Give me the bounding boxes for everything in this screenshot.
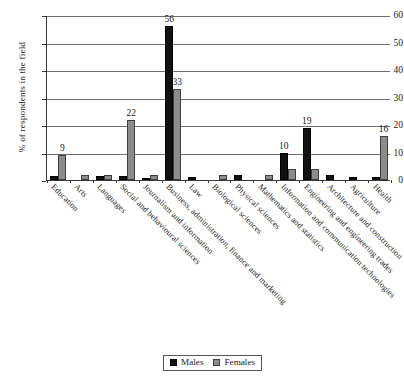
y-axis-tick-label: 40 <box>369 66 403 76</box>
y-axis-tick-mark <box>42 99 46 100</box>
bar-females <box>288 169 296 180</box>
bar-males <box>119 176 127 180</box>
bar-group <box>162 16 185 180</box>
bar-group <box>345 16 368 180</box>
bar-males <box>142 178 150 180</box>
bar-females <box>265 175 273 181</box>
legend-swatch-icon <box>170 359 177 366</box>
bar-females <box>219 175 227 181</box>
legend-item: Males <box>170 358 203 367</box>
bar-group <box>276 16 299 180</box>
bar-females <box>173 89 181 180</box>
bar-males <box>234 175 242 181</box>
bar-group <box>208 16 231 180</box>
legend-swatch-icon <box>213 359 220 366</box>
y-axis-tick-label: 20 <box>369 121 403 131</box>
x-axis-label: Law <box>187 183 204 200</box>
bar-males <box>96 176 104 180</box>
bar-males <box>303 128 311 180</box>
bar-group <box>70 16 93 180</box>
bar-value-label: 19 <box>302 117 312 127</box>
x-axis-label: Arts <box>72 183 88 199</box>
bar-group <box>185 16 208 180</box>
y-axis-tick-mark <box>42 44 46 45</box>
bar-group <box>299 16 322 180</box>
y-axis-title: % of respondents in the field <box>17 12 27 182</box>
y-axis-tick-mark <box>42 181 46 182</box>
bar-group <box>139 16 162 180</box>
bar-group <box>116 16 139 180</box>
legend-label: Females <box>224 358 255 367</box>
bar-females <box>127 120 135 181</box>
bar-males <box>50 176 58 180</box>
bar-group <box>93 16 116 180</box>
plot-area: 9225633101916 <box>46 16 390 181</box>
chart-legend: MalesFemales <box>163 355 262 371</box>
y-axis-tick-label: 30 <box>369 94 403 104</box>
bar-males <box>280 153 288 181</box>
y-axis-tick-mark <box>42 126 46 127</box>
legend-item: Females <box>213 358 255 367</box>
y-axis-tick-label: 10 <box>369 149 403 159</box>
bar-value-label: 9 <box>60 144 65 154</box>
bar-males <box>165 26 173 180</box>
bar-males <box>349 177 357 180</box>
bar-group <box>253 16 276 180</box>
y-axis-tick-mark <box>42 71 46 72</box>
bar-males <box>326 175 334 181</box>
bar-group <box>47 16 70 180</box>
bar-females <box>104 175 112 181</box>
y-axis-tick-mark <box>42 16 46 17</box>
y-axis-tick-label: 0 <box>369 176 403 186</box>
bar-females <box>58 155 66 180</box>
bar-females <box>311 169 319 180</box>
bar-females <box>81 175 89 181</box>
y-axis-tick-label: 60 <box>369 11 403 21</box>
bar-value-label: 56 <box>164 15 174 25</box>
bar-females <box>150 175 158 181</box>
bar-group <box>322 16 345 180</box>
bar-value-label: 33 <box>172 78 182 88</box>
bar-group <box>230 16 253 180</box>
legend-label: Males <box>181 358 203 367</box>
x-axis-labels: EducationArtsLanguagesSocial and behavio… <box>46 183 390 333</box>
bar-males <box>188 177 196 180</box>
y-axis-tick-label: 50 <box>369 39 403 49</box>
bar-value-label: 10 <box>279 142 289 152</box>
y-axis-tick-mark <box>42 154 46 155</box>
bar-value-label: 22 <box>127 109 137 119</box>
